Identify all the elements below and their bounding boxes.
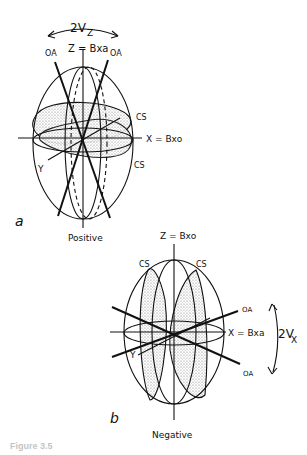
sign-label: Positive (68, 233, 103, 243)
circular-section-label: CS (134, 161, 145, 170)
angle-subscript: Z (87, 28, 93, 38)
circular-section-label: CS (196, 260, 207, 269)
x-axis-label: X = Bxa (228, 328, 264, 338)
angle-subscript: X (291, 335, 297, 345)
arrowhead-bottom (268, 367, 277, 374)
optic-axis-label: OA (243, 370, 253, 378)
y-axis-label: Y (129, 350, 136, 360)
sign-label: Negative (152, 430, 193, 440)
optic-indicatrix-diagram: 2V Z Z = Bxa OA OA CS X = Bxo CS Y a Pos… (0, 0, 307, 455)
optic-axis-label: OA (110, 49, 122, 58)
panel-label: a (15, 213, 24, 229)
y-axis-label: Y (37, 164, 44, 174)
optic-axis-label: OA (45, 49, 57, 58)
optic-axis-label: OA (242, 306, 252, 314)
circular-section-label: CS (136, 113, 147, 122)
x-axis-label: X = Bxo (146, 134, 183, 144)
arrowhead-top (269, 304, 277, 311)
z-axis-label: Z = Bxo (160, 231, 197, 241)
circular-section-1 (140, 269, 166, 400)
circular-section-label: CS (139, 260, 150, 269)
indicatrix-positive (18, 29, 142, 228)
figure-caption: Figure 3.5 (10, 441, 53, 451)
panel-label: b (110, 410, 119, 426)
angle-label: 2V (70, 21, 87, 35)
z-axis-label: Z = Bxa (68, 43, 109, 54)
